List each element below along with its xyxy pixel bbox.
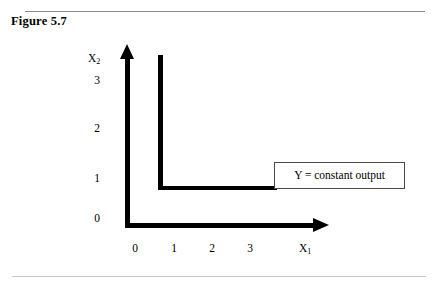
x-tick-label-2: 2 <box>200 243 224 255</box>
y-axis-line <box>125 57 130 228</box>
x-axis-title-subscript: 1 <box>307 247 311 256</box>
bottom-divider-rule <box>12 276 426 277</box>
y-tick-label-0: 0 <box>72 213 100 225</box>
isoquant-horizontal-arm <box>158 186 277 191</box>
isoquant-chart: X2 3 2 1 0 0 1 2 3 X1 Y = constant outpu… <box>0 0 437 286</box>
x-tick-label-3: 3 <box>238 243 262 255</box>
x-tick-label-0: 0 <box>123 243 147 255</box>
x-axis-line <box>125 223 315 228</box>
x-axis-title: X1 <box>299 243 311 256</box>
y-axis-title: X2 <box>88 53 100 66</box>
y-axis-arrowhead-icon <box>120 44 134 59</box>
y-tick-label-2: 2 <box>72 123 100 135</box>
isoquant-vertical-arm <box>158 55 163 190</box>
x-axis-arrowhead-icon <box>313 218 329 232</box>
y-axis-title-subscript: 2 <box>96 57 100 66</box>
x-tick-label-1: 1 <box>162 243 186 255</box>
isoquant-callout-box: Y = constant output <box>274 162 405 189</box>
isoquant-callout-label: Y = constant output <box>294 170 385 182</box>
y-tick-label-3: 3 <box>72 75 100 87</box>
y-tick-label-1: 1 <box>72 173 100 185</box>
figure-page: Figure 5.7 X2 3 2 1 0 0 1 2 3 X1 Y = con… <box>0 0 437 286</box>
